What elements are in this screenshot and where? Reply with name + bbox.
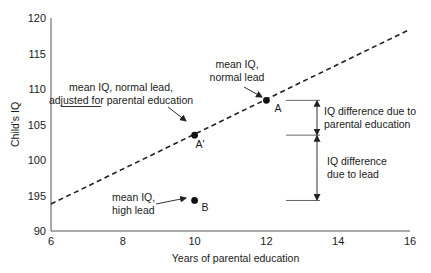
y-tick-label: 110	[28, 83, 46, 95]
point-label-b: B	[202, 201, 209, 213]
x-tick-label: 16	[404, 235, 416, 247]
reference-lines	[286, 100, 320, 200]
y-tick-label: 120	[28, 12, 46, 24]
annotations: mean IQ,normal leadmean IQ, normal lead,…	[49, 58, 265, 216]
annotation-a: mean IQ,normal lead	[210, 58, 265, 83]
x-axis-label: Years of parental education	[172, 252, 300, 264]
x-tick-labels: 6810121416	[48, 235, 416, 247]
y-tick-labels: 90195100105110115120	[28, 12, 46, 237]
bracket-label-lead: IQ differencedue to lead	[327, 155, 387, 180]
point-a	[263, 97, 270, 104]
point-label-a-prime: A′	[196, 138, 205, 150]
x-tick-label: 12	[260, 235, 272, 247]
y-tick-label: 115	[28, 48, 46, 60]
x-tick-label: 14	[332, 235, 344, 247]
y-tick-label: 100	[28, 154, 46, 166]
annotation-arrow	[156, 198, 186, 204]
y-axis-label: Child's IQ	[9, 102, 21, 147]
point-label-a: A	[274, 102, 281, 114]
x-tick-label: 10	[188, 235, 200, 247]
point-b	[191, 197, 198, 204]
difference-brackets: IQ difference due toparental educationIQ…	[317, 101, 416, 200]
annotation-arrow	[244, 87, 262, 97]
annotation-arrow	[168, 107, 186, 121]
y-tick-label: 195	[28, 190, 46, 202]
bracket-label-parental-education: IQ difference due toparental education	[324, 105, 416, 130]
y-tick-label: 90	[34, 225, 46, 237]
x-tick-label: 8	[120, 235, 126, 247]
iq-lead-diagram: 90195100105110115120 6810121416 Child's …	[0, 0, 431, 273]
x-tick-label: 6	[48, 235, 54, 247]
annotation-b: mean IQ,high lead	[112, 191, 155, 216]
y-tick-label: 105	[28, 119, 46, 131]
annotation-a-prime: mean IQ, normal lead,adjusted for parent…	[49, 81, 193, 106]
